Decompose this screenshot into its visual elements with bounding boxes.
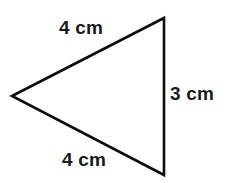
geometry-figure: 4 cm 3 cm 4 cm [0,0,230,183]
side-label-right: 3 cm [170,84,214,103]
side-label-bottom: 4 cm [62,150,106,169]
side-label-top: 4 cm [59,18,103,37]
